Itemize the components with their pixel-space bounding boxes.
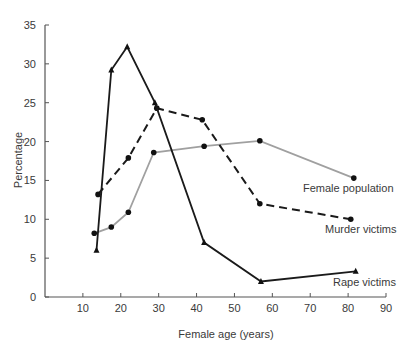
murder-victims-label: Murder victims [325,223,397,235]
axes: 05101520253035 102030405060708090 [24,19,392,314]
x-tick-label: 50 [228,302,240,314]
y-tick-label: 35 [24,19,36,31]
x-ticks: 102030405060708090 [77,293,392,314]
circle-marker [201,143,207,149]
circle-marker [351,175,357,181]
x-tick-label: 80 [342,302,354,314]
series-murder-victims: Murder victims [95,105,397,235]
circle-marker [95,192,101,198]
x-tick-label: 60 [266,302,278,314]
y-tick-label: 10 [24,213,36,225]
circle-marker [257,138,263,144]
y-tick-label: 0 [30,291,36,303]
x-tick-label: 20 [115,302,127,314]
triangle-marker [124,43,130,49]
x-tick-label: 30 [153,302,165,314]
series-female-population: Female population [91,138,393,236]
y-tick-label: 30 [24,58,36,70]
x-tick-label: 90 [380,302,392,314]
circle-marker [348,216,354,222]
circle-marker [91,230,97,236]
circle-marker [126,155,132,161]
line-chart: 05101520253035 102030405060708090 Percen… [0,0,405,352]
circle-marker [257,201,263,207]
series-rape-victims: Rape victims [94,43,397,288]
x-tick-label: 40 [190,302,202,314]
y-tick-label: 20 [24,136,36,148]
y-tick-label: 25 [24,97,36,109]
triangle-marker [201,239,207,245]
y-tick-label: 5 [30,252,36,264]
y-axis-title: Percentage [12,132,24,188]
x-tick-label: 10 [77,302,89,314]
murder-victims-line [98,108,351,219]
circle-marker [199,117,205,123]
rape-victims-label: Rape victims [333,276,396,288]
triangle-marker [94,247,100,253]
series-group: Female populationMurder victimsRape vict… [91,43,397,288]
female-population-label: Female population [303,182,394,194]
y-tick-label: 15 [24,174,36,186]
x-tick-label: 70 [304,302,316,314]
x-axis-title: Female age (years) [178,328,273,340]
circle-marker [126,209,132,215]
circle-marker [151,150,157,156]
circle-marker [109,224,115,230]
